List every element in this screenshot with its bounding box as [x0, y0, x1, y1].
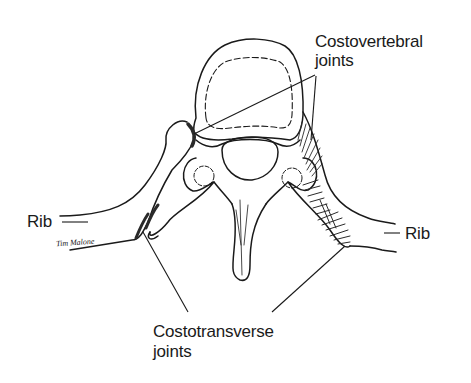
label-costovertebral-line1: Costovertebral	[315, 33, 423, 50]
right-rib-lower	[350, 246, 396, 252]
leader-costovertebral-left	[194, 75, 315, 134]
pedicles	[196, 140, 300, 147]
spinous-crest	[236, 200, 248, 275]
right-costotransverse-joint	[303, 180, 350, 244]
label-rib-right: Rib	[405, 225, 430, 242]
vertebral-foramen	[222, 137, 278, 180]
left-rib-lower	[70, 140, 194, 250]
label-rib-left: Rib	[27, 213, 52, 230]
vertebral-body-inner	[205, 58, 292, 129]
leader-costovertebral-right	[311, 76, 316, 140]
label-costotransverse-line1: Costotransverse	[153, 323, 274, 340]
right-costovertebral-joint	[298, 122, 322, 176]
vertebral-body	[194, 39, 303, 140]
leader-costotransverse-right	[272, 246, 345, 312]
left-rib-upper	[60, 121, 187, 216]
lamina-left	[214, 182, 232, 204]
label-costotransverse-line2: joints	[153, 343, 192, 360]
lamina-right	[266, 182, 288, 204]
leader-costotransverse-left	[143, 232, 188, 312]
left-facet	[194, 166, 214, 186]
left-transverse-process	[150, 158, 214, 235]
label-costovertebral-line2: joints	[315, 52, 354, 69]
